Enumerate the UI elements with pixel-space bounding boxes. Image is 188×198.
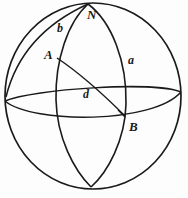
equator-front-arc: [5, 92, 181, 117]
sphere-outline: [5, 3, 181, 189]
meridian-through-b: [88, 4, 126, 187]
spherical-triangle-figure: N A B a b d: [0, 0, 188, 198]
label-side-a: a: [128, 54, 134, 66]
label-north-pole: N: [87, 8, 96, 21]
vertex-b-crossing-mark: [118, 110, 125, 117]
label-vertex-b: B: [129, 120, 138, 133]
sphere-diagram-svg: [0, 0, 188, 198]
label-side-d: d: [83, 88, 89, 100]
label-side-b: b: [57, 22, 63, 34]
equator-back-arc: [5, 87, 181, 101]
label-vertex-a: A: [44, 48, 53, 61]
